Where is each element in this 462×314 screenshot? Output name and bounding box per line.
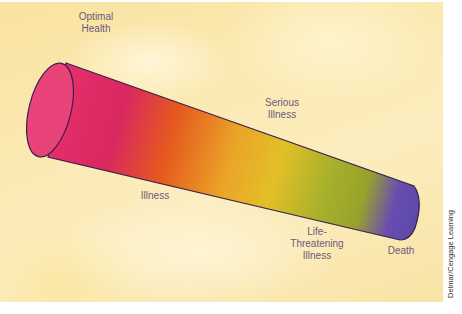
health-text: Health — [76, 23, 116, 35]
tube-body — [48, 63, 419, 240]
serious-illness-text: Illness — [257, 109, 307, 121]
label-serious-illness: Serious Illness — [257, 97, 307, 121]
life-text: Life- — [286, 226, 348, 238]
death-text: Death — [381, 245, 421, 257]
continuum-tube — [0, 0, 462, 314]
image-credit: Delmar/Cengage Learning — [446, 210, 455, 298]
life-threatening-illness-text: Illness — [286, 250, 348, 262]
threatening-text: Threatening — [286, 238, 348, 250]
optimal-text: Optimal — [76, 11, 116, 23]
illness-text: Illness — [135, 190, 175, 202]
label-illness: Illness — [135, 190, 175, 202]
label-death: Death — [381, 245, 421, 257]
label-optimal-health: Optimal Health — [76, 11, 116, 35]
health-continuum-diagram: Optimal Health Serious Illness Illness L… — [0, 0, 462, 314]
serious-text: Serious — [257, 97, 307, 109]
label-life-threatening-illness: Life- Threatening Illness — [286, 226, 348, 262]
